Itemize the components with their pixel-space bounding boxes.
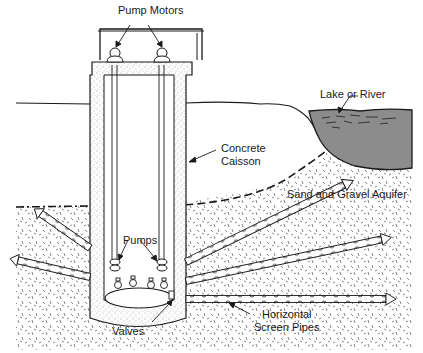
label-concrete: Concrete: [221, 142, 266, 154]
pump-motor-right: [154, 48, 170, 62]
label-screen-pipes: Screen Pipes: [254, 321, 319, 333]
concrete-caisson: [90, 62, 192, 327]
label-pumps: Pumps: [123, 234, 157, 246]
label-horizontal: Horizontal: [262, 308, 312, 320]
label-valves: Valves: [112, 325, 144, 337]
label-caisson: Caisson: [221, 155, 261, 167]
diagram-canvas: [0, 0, 423, 353]
label-lake-or-river: Lake or River: [320, 88, 385, 100]
collector-well-diagram: Pump Motors Lake or River Concrete Caiss…: [0, 0, 423, 353]
pump-motor-left: [107, 48, 123, 62]
label-pump-motors: Pump Motors: [118, 4, 183, 16]
label-aquifer: Sand and Gravel Aquifer: [287, 188, 407, 200]
